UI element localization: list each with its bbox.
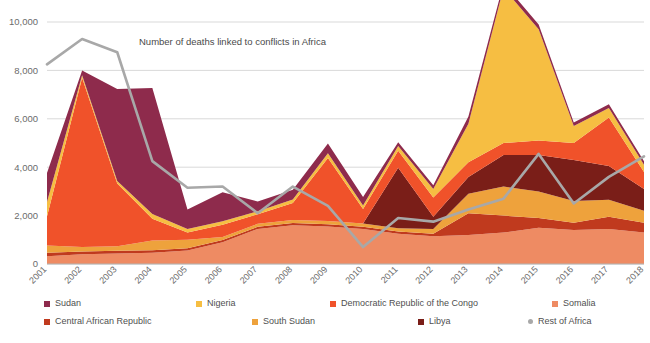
legend-item-nigeria[interactable]: Nigeria (196, 299, 236, 308)
x-tick-label: 2015 (519, 264, 540, 285)
legend-label: South Sudan (263, 317, 315, 326)
legend-item-rest-of-africa[interactable]: Rest of Africa (528, 317, 592, 326)
legend-item-somalia[interactable]: Somalia (552, 299, 596, 308)
x-tick-label: 2012 (413, 264, 434, 285)
legend-swatch-icon (44, 301, 50, 307)
x-tick-label: 2001 (27, 264, 48, 285)
x-tick-label: 2006 (203, 264, 224, 285)
legend-swatch-icon (552, 301, 558, 307)
legend-label: Rest of Africa (538, 317, 592, 326)
y-axis-tick-labels: 02,0004,0006,0008,00010,000 (9, 16, 38, 269)
legend-swatch-icon (44, 319, 50, 325)
legend-row-1: SudanNigeriaDemocratic Republic of the C… (0, 295, 650, 312)
legend-label: Central African Republic (55, 317, 152, 326)
x-tick-label: 2017 (589, 264, 610, 285)
legend-label: Libya (429, 317, 451, 326)
legend-item-democratic-republic-of-the-congo[interactable]: Democratic Republic of the Congo (330, 299, 478, 308)
x-tick-label: 2010 (343, 264, 364, 285)
x-tick-label: 2011 (379, 264, 400, 285)
plot-area: 02,0004,0006,0008,00010,000 200120022003… (0, 0, 650, 290)
chart-legend: SudanNigeriaDemocratic Republic of the C… (0, 292, 650, 343)
chart-title: Number of deaths linked to conflicts in … (139, 36, 327, 47)
y-tick-label: 10,000 (9, 16, 38, 27)
x-tick-label: 2009 (308, 264, 329, 285)
x-tick-label: 2004 (133, 264, 154, 285)
legend-item-central-african-republic[interactable]: Central African Republic (44, 317, 152, 326)
x-tick-label: 2007 (238, 264, 259, 285)
legend-swatch-icon (528, 319, 533, 324)
stacked-area-svg: 02,0004,0006,0008,00010,000 200120022003… (0, 0, 650, 290)
conflict-deaths-area-chart: 02,0004,0006,0008,00010,000 200120022003… (0, 0, 650, 343)
y-tick-label: 8,000 (14, 65, 38, 76)
legend-label: Sudan (55, 299, 81, 308)
area-series-group (47, 0, 644, 264)
x-tick-label: 2013 (449, 264, 470, 285)
legend-row-2: Central African RepublicSouth SudanLibya… (0, 313, 650, 330)
x-tick-label: 2003 (97, 264, 118, 285)
y-tick-label: 2,000 (14, 210, 38, 221)
x-axis-tick-labels: 2001200220032004200520062007200820092010… (27, 264, 645, 285)
legend-item-libya[interactable]: Libya (418, 317, 451, 326)
legend-label: Nigeria (207, 299, 236, 308)
x-tick-label: 2005 (168, 264, 189, 285)
legend-label: Democratic Republic of the Congo (341, 299, 478, 308)
x-tick-label: 2016 (554, 264, 575, 285)
legend-swatch-icon (330, 301, 336, 307)
legend-label: Somalia (563, 299, 596, 308)
legend-swatch-icon (252, 319, 258, 325)
legend-item-south-sudan[interactable]: South Sudan (252, 317, 315, 326)
legend-item-sudan[interactable]: Sudan (44, 299, 81, 308)
x-tick-label: 2008 (273, 264, 294, 285)
y-tick-label: 6,000 (14, 113, 38, 124)
legend-swatch-icon (196, 301, 202, 307)
x-tick-label: 2018 (624, 264, 645, 285)
x-tick-label: 2014 (484, 264, 505, 285)
legend-swatch-icon (418, 319, 424, 325)
x-tick-label: 2002 (62, 264, 83, 285)
y-tick-label: 4,000 (14, 162, 38, 173)
